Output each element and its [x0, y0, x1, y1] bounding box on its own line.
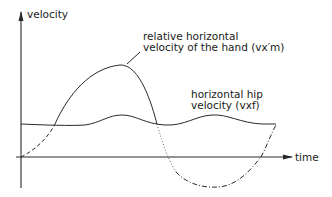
hand-velocity-curve-dotted	[157, 124, 176, 172]
hip-velocity-curve	[21, 115, 276, 125]
hand-velocity-curve-dashdot	[176, 125, 276, 187]
hand-velocity-curve-solid	[55, 65, 157, 124]
hand-velocity-curve-dashed-start	[21, 124, 55, 157]
velocity-diagram: velocity time relative horizontal veloci…	[0, 0, 332, 197]
x-axis-label: time	[295, 151, 319, 163]
hand-label-line2: velocity of the hand (vx′m)	[143, 41, 284, 53]
hip-label-line2: velocity (vxf)	[191, 99, 260, 111]
y-axis-label: velocity	[27, 8, 68, 20]
hand-label-leader	[127, 52, 140, 64]
